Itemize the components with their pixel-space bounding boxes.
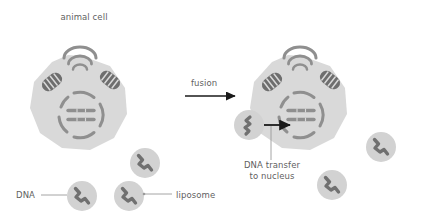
right-animal-cell xyxy=(250,47,347,150)
diagram-graphics xyxy=(0,0,424,221)
fusion-label: fusion xyxy=(191,78,217,88)
diagram-canvas: animal cell fusion DNA transfer to nucle… xyxy=(0,0,424,221)
liposome-fusing xyxy=(234,110,264,140)
liposome-free-right-lower xyxy=(317,170,347,200)
left-animal-cell xyxy=(30,47,127,150)
dna-transfer-label-line1: DNA transfer xyxy=(226,160,318,170)
liposome-dna-labeled xyxy=(67,181,97,211)
liposome-labeled xyxy=(114,181,144,211)
dna-transfer-label-line2: to nucleus xyxy=(226,171,318,181)
animal-cell-label: animal cell xyxy=(46,12,122,22)
liposome-leader-dot xyxy=(143,193,146,196)
liposome-free-left-mid xyxy=(130,148,160,178)
liposome-free-right-upper xyxy=(366,132,396,162)
dna-label: DNA xyxy=(16,190,35,200)
liposome-label: liposome xyxy=(176,190,215,200)
